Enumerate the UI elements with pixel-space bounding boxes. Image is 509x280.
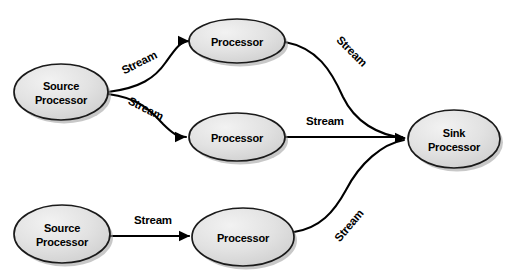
diagram-canvas: SourceProcessorProcessorProcessorSinkPro… [0,0,509,280]
node-label-line2: Processor [428,141,481,153]
arrowhead-processor-bottom-icon [179,231,190,241]
stream-topology-diagram: SourceProcessorProcessorProcessorSinkPro… [0,0,509,280]
edge-processor-top-to-sink-processor [285,42,404,138]
node-label-line2: Processor [36,236,89,248]
node-label-line1: Processor [211,132,264,144]
node-label-line1: Source [44,222,80,234]
node-label-line1: Processor [217,232,270,244]
node-ellipse [14,64,108,120]
node-label-line1: Processor [211,36,264,48]
node-processor-middle[interactable]: Processor [189,113,288,165]
edge-label-edge-source-top-to-processor-middle: Stream [126,95,165,123]
node-sink-processor[interactable]: SinkProcessor [408,110,503,172]
nodes-layer: SourceProcessorProcessorProcessorSinkPro… [14,19,503,270]
node-label-line1: Source [43,80,79,92]
node-label-line2: Processor [35,94,88,106]
node-ellipse [14,205,110,263]
arrowhead-processor-top-icon [178,36,189,46]
node-source-processor-top[interactable]: SourceProcessor [14,64,111,124]
node-processor-top[interactable]: Processor [189,19,288,67]
node-source-processor-bottom[interactable]: SourceProcessor [14,205,113,267]
edge-label-edge-source-bottom-to-processor-bottom: Stream [134,214,172,226]
arrowhead-processor-middle-icon [175,132,186,142]
node-processor-bottom[interactable]: Processor [192,208,297,270]
edge-label-edge-processor-middle-to-sink: Stream [306,115,344,127]
edge-label-edge-processor-bottom-to-sink: Stream [332,207,365,244]
edge-label-edge-processor-top-to-sink: Stream [334,34,369,69]
node-label-line1: Sink [443,127,467,139]
edge-label-edge-source-top-to-processor-top: Stream [120,49,159,77]
node-ellipse [408,110,500,168]
